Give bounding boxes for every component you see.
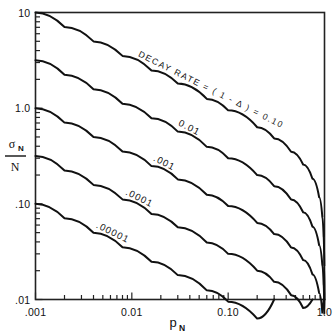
log-log-chart: DECAY RATE = ( 1 - Δ ) = 0.100.01.001.00…: [0, 0, 336, 334]
y-tick-label: .01: [15, 294, 31, 306]
figure-container: DECAY RATE = ( 1 - Δ ) = 0.100.01.001.00…: [0, 0, 336, 334]
x-tick-label: .001: [25, 306, 47, 318]
x-axis-title-subscript: N: [179, 323, 185, 333]
y-axis-denominator-symbol: N: [11, 160, 20, 174]
y-tick-label: 10: [18, 7, 30, 19]
y-tick-label: .10: [15, 198, 31, 210]
y-axis-numerator-symbol: σ: [9, 137, 16, 151]
y-axis-numerator-subscript: N: [18, 144, 24, 153]
x-tick-label: 0.10: [217, 306, 239, 318]
x-tick-label: 0.01: [121, 306, 143, 318]
y-tick-label: 1.0: [15, 102, 31, 114]
x-axis-title-symbol: p: [169, 315, 176, 330]
x-tick-label: 1.0: [317, 306, 333, 318]
